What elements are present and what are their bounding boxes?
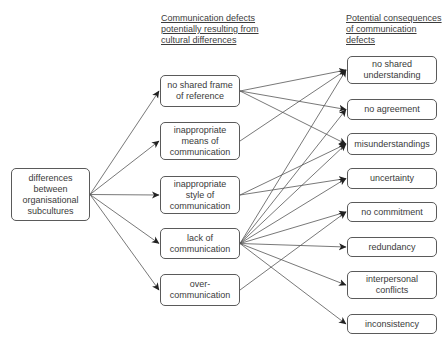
arrow-differences-to-means	[90, 141, 159, 195]
arrow-differences-to-style	[90, 195, 159, 196]
node-label: uncertainty	[370, 173, 414, 184]
arrow-lack-to-redundancy	[240, 244, 346, 248]
defect-node-means: inappropriatemeans ofcommunication	[160, 122, 240, 160]
arrow-differences-to-frame	[90, 91, 159, 195]
header-line: of communication	[346, 24, 442, 35]
node-label-line: inconsistency	[365, 319, 419, 330]
node-label: over-communication	[170, 279, 231, 301]
node-label: lack ofcommunication	[170, 233, 231, 255]
source-node-differences: differencesbetweenorganisationalsubcultu…	[11, 168, 90, 221]
header-line: cultural differences	[161, 35, 259, 46]
arrow-lack-to-misunderstandings	[240, 144, 346, 244]
node-label-line: uncertainty	[370, 173, 414, 184]
consequence-node-commitment: no commitment	[347, 202, 437, 222]
node-label: interpersonalconflicts	[366, 274, 418, 296]
header-line: Potential consequences	[346, 13, 442, 24]
node-label-line: between	[22, 184, 78, 195]
node-label: redundancy	[368, 242, 415, 253]
node-label-line: communication	[170, 201, 231, 212]
node-label-line: no agreement	[364, 104, 420, 115]
node-label-line: style of	[170, 190, 231, 201]
arrow-lack-to-uncertainty	[240, 179, 346, 244]
arrow-style-to-misunderstandings	[240, 144, 346, 195]
node-label: misunderstandings	[354, 139, 430, 150]
arrow-frame-to-agreement	[240, 91, 346, 110]
consequence-node-redundancy: redundancy	[347, 237, 437, 257]
header-communication-defects: Communication defects potentially result…	[161, 13, 259, 46]
node-label-line: no commitment	[361, 207, 423, 218]
node-label-line: no shared frame	[167, 80, 233, 91]
consequence-node-uncertainty: uncertainty	[347, 168, 437, 189]
node-label: inappropriatestyle ofcommunication	[170, 179, 231, 212]
node-label-line: of reference	[167, 91, 233, 102]
node-label-line: organisational	[22, 195, 78, 206]
header-line: Communication defects	[161, 13, 259, 24]
defect-node-lack: lack ofcommunication	[160, 228, 240, 259]
header-potential-consequences: Potential consequences of communication …	[346, 13, 442, 46]
node-label-line: redundancy	[368, 242, 415, 253]
node-label-line: understanding	[363, 70, 420, 81]
node-label-line: communication	[170, 147, 231, 158]
header-line: defects	[346, 35, 442, 46]
node-label-line: lack of	[170, 233, 231, 244]
node-label: no shared frameof reference	[167, 80, 233, 102]
arrow-frame-to-misunderstandings	[240, 91, 346, 144]
node-label-line: differences	[22, 173, 78, 184]
node-label-line: subcultures	[22, 206, 78, 217]
consequence-node-conflicts: interpersonalconflicts	[347, 271, 437, 299]
arrow-differences-to-lack	[90, 195, 159, 244]
node-label-line: misunderstandings	[354, 139, 430, 150]
node-label-line: communication	[170, 244, 231, 255]
arrow-differences-to-over	[90, 195, 159, 291]
header-line: potentially resulting from	[161, 24, 259, 35]
node-label-line: inappropriate	[170, 179, 231, 190]
node-label: inappropriatemeans ofcommunication	[170, 125, 231, 158]
defect-node-over: over-communication	[160, 274, 240, 306]
node-label: differencesbetweenorganisationalsubcultu…	[22, 173, 78, 217]
node-label: inconsistency	[365, 319, 419, 330]
node-label-line: communication	[170, 290, 231, 301]
consequence-node-understanding: no sharedunderstanding	[347, 56, 437, 84]
node-label-line: inappropriate	[170, 125, 231, 136]
node-label-line: no shared	[363, 59, 420, 70]
arrow-style-to-uncertainty	[240, 179, 346, 196]
node-label-line: over-	[170, 279, 231, 290]
defect-node-style: inappropriatestyle ofcommunication	[160, 176, 240, 214]
node-label: no agreement	[364, 104, 420, 115]
node-label: no commitment	[361, 207, 423, 218]
arrow-lack-to-inconsistency	[240, 244, 346, 325]
node-label-line: conflicts	[366, 285, 418, 296]
arrow-lack-to-understanding	[240, 70, 346, 244]
node-label-line: means of	[170, 136, 231, 147]
consequence-node-agreement: no agreement	[347, 99, 437, 120]
node-label-line: interpersonal	[366, 274, 418, 285]
node-label: no sharedunderstanding	[363, 59, 420, 81]
consequence-node-misunderstandings: misunderstandings	[347, 133, 437, 155]
defect-node-frame: no shared frameof reference	[160, 75, 240, 107]
consequence-node-inconsistency: inconsistency	[347, 314, 437, 334]
